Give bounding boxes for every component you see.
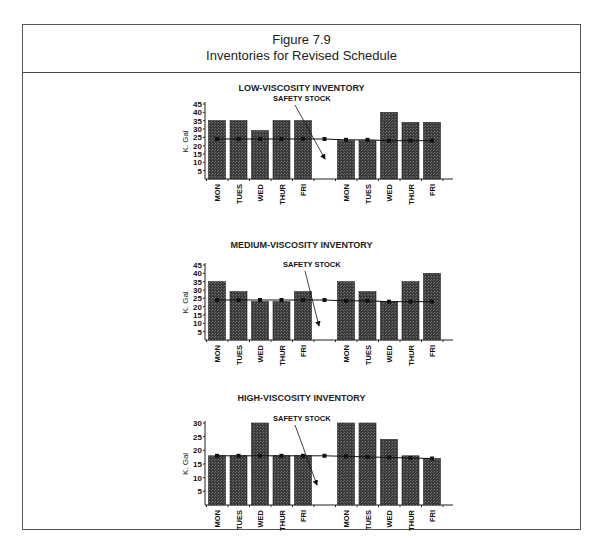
medium-viscosity-plot: 51015202530354045K. GalMONTUESWEDTHURFRI… — [23, 240, 582, 390]
y-tick-label: 35 — [193, 278, 202, 287]
bar — [338, 423, 355, 505]
y-tick-label: 20 — [193, 303, 202, 312]
safety-stock-marker — [366, 299, 370, 303]
safety-stock-marker — [409, 139, 413, 143]
bar — [381, 112, 398, 179]
bar — [252, 302, 269, 340]
bar — [359, 141, 376, 179]
safety-stock-marker — [430, 457, 434, 461]
bar — [209, 282, 226, 340]
y-tick-label: 25 — [193, 433, 202, 442]
safety-stock-marker — [258, 298, 262, 302]
safety-stock-marker — [387, 300, 391, 304]
safety-stock-marker — [344, 454, 348, 458]
y-tick-label: 45 — [193, 261, 202, 270]
x-tick-label: WED — [256, 344, 265, 362]
y-tick-label: 40 — [193, 269, 202, 278]
bar — [273, 121, 290, 179]
x-tick-label: THUR — [407, 183, 416, 204]
y-tick-label: 15 — [193, 311, 202, 320]
chart-title: HIGH-VISCOSITY INVENTORY — [23, 393, 580, 403]
safety-stock-annotation: SAFETY STOCK — [283, 260, 341, 269]
bar — [402, 122, 419, 179]
bar — [381, 302, 398, 340]
safety-stock-marker — [366, 138, 370, 142]
safety-stock-marker — [280, 454, 284, 458]
high-viscosity-chart: HIGH-VISCOSITY INVENTORY 51015202530K. G… — [23, 393, 580, 533]
y-tick-label: 20 — [193, 142, 202, 151]
y-tick-label: 30 — [193, 419, 202, 428]
x-tick-label: WED — [385, 509, 394, 527]
x-tick-label: WED — [385, 183, 394, 201]
x-tick-label: THUR — [407, 344, 416, 365]
bar — [424, 273, 441, 340]
y-tick-label: 35 — [193, 117, 202, 126]
safety-stock-marker — [323, 298, 327, 302]
x-tick-label: TUES — [235, 510, 244, 530]
low-viscosity-chart: LOW-VISCOSITY INVENTORY 5101520253035404… — [23, 83, 580, 233]
y-tick-label: 25 — [193, 133, 202, 142]
safety-stock-marker — [344, 299, 348, 303]
y-tick-label: 5 — [198, 487, 203, 496]
x-tick-label: MON — [342, 184, 351, 202]
bar — [209, 121, 226, 179]
safety-stock-annotation: SAFETY STOCK — [273, 94, 331, 103]
figure-frame: Figure 7.9 Inventories for Revised Sched… — [22, 24, 581, 530]
safety-stock-marker — [301, 137, 305, 141]
bar — [424, 459, 441, 505]
x-tick-label: THUR — [278, 344, 287, 365]
safety-stock-marker — [430, 300, 434, 304]
safety-stock-marker — [258, 454, 262, 458]
safety-stock-marker — [237, 298, 241, 302]
bar — [252, 423, 269, 505]
bar — [402, 282, 419, 340]
x-tick-label: FRI — [299, 184, 308, 196]
safety-stock-marker — [280, 137, 284, 141]
x-tick-label: FRI — [299, 510, 308, 522]
chart-title: MEDIUM-VISCOSITY INVENTORY — [23, 240, 580, 250]
x-tick-label: TUES — [364, 184, 373, 204]
y-tick-label: 10 — [193, 158, 202, 167]
x-tick-label: THUR — [278, 183, 287, 204]
y-tick-label: 10 — [193, 319, 202, 328]
safety-stock-marker — [280, 298, 284, 302]
y-axis-label: K. Gal — [181, 453, 190, 475]
y-tick-label: 5 — [198, 167, 203, 176]
x-tick-label: THUR — [407, 509, 416, 530]
safety-stock-marker — [323, 137, 327, 141]
safety-stock-marker — [366, 455, 370, 459]
bar — [338, 282, 355, 340]
bar — [359, 423, 376, 505]
y-tick-label: 10 — [193, 474, 202, 483]
y-tick-label: 20 — [193, 446, 202, 455]
bar — [338, 141, 355, 179]
figure-header: Figure 7.9 Inventories for Revised Sched… — [23, 25, 580, 73]
chart-title: LOW-VISCOSITY INVENTORY — [23, 83, 580, 93]
x-tick-label: MON — [213, 184, 222, 202]
bar — [402, 456, 419, 505]
safety-stock-marker — [387, 455, 391, 459]
x-tick-label: TUES — [235, 345, 244, 365]
y-tick-label: 5 — [198, 328, 203, 337]
safety-stock-marker — [237, 454, 241, 458]
x-tick-label: MON — [213, 345, 222, 363]
y-axis-label: K. Gal — [181, 291, 190, 313]
x-tick-label: FRI — [299, 345, 308, 357]
x-tick-label: THUR — [278, 509, 287, 530]
y-tick-label: 30 — [193, 286, 202, 295]
safety-stock-marker — [301, 298, 305, 302]
y-axis-label: K. Gal — [181, 130, 190, 152]
safety-stock-marker — [215, 454, 219, 458]
x-tick-label: FRI — [428, 184, 437, 196]
y-tick-label: 40 — [193, 108, 202, 117]
x-tick-label: FRI — [428, 345, 437, 357]
figure-title: Inventories for Revised Schedule — [23, 48, 580, 64]
x-tick-label: WED — [385, 344, 394, 362]
x-tick-label: FRI — [428, 510, 437, 522]
safety-stock-marker — [215, 137, 219, 141]
bar — [209, 456, 226, 505]
safety-stock-marker — [323, 454, 327, 458]
safety-stock-marker — [258, 137, 262, 141]
bar — [273, 302, 290, 340]
x-tick-label: WED — [256, 509, 265, 527]
